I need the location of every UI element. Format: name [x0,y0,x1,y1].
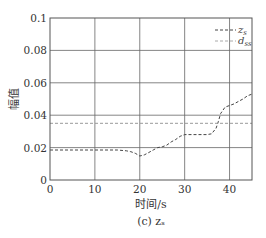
x-tick-label: 0 [47,183,54,195]
y-tick-label: 0.08 [24,44,47,56]
x-tick-label: 40 [223,183,236,195]
y-axis-label: 幅值 [8,88,21,110]
plot-frame [50,18,252,180]
x-axis-label: 时间/s [135,198,167,211]
legend: zs dss [215,24,252,48]
x-tick-label: 10 [88,183,101,195]
x-tick-label: 30 [178,183,191,195]
x-tick-label: 20 [133,183,146,195]
y-tick-labels: 00.020.040.060.080.1 [24,12,48,186]
y-tick-label: 0.06 [24,77,48,89]
series-lines [50,94,252,156]
y-tick-label: 0.02 [24,142,47,154]
y-tick-label: 0.1 [30,12,47,24]
x-tick-labels: 010203040 [47,183,237,195]
grid-lines [50,18,252,180]
line-chart: 00.020.040.060.080.1 010203040 zs dss 幅值… [0,0,266,238]
series-z-s [50,94,252,156]
y-tick-label: 0.04 [24,109,48,121]
chart-caption: (c) zₛ [137,215,165,228]
